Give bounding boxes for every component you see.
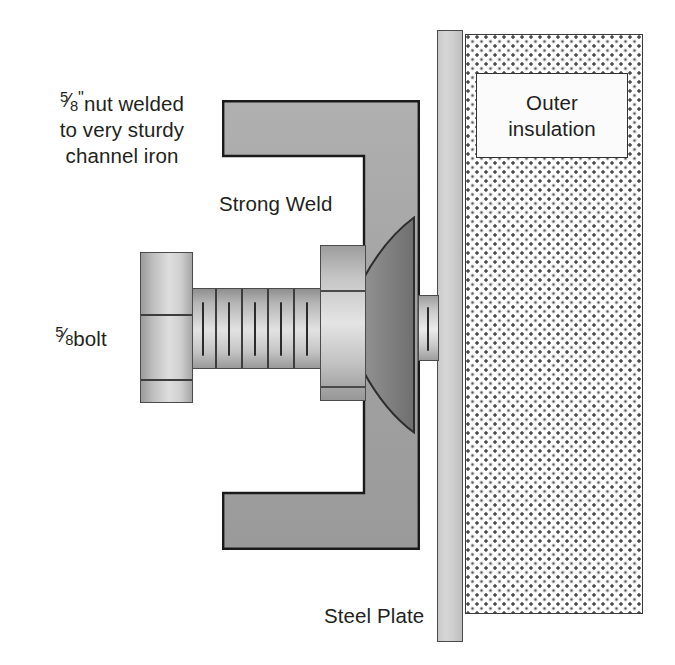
- thread-tick: [280, 302, 282, 356]
- thread-tick: [202, 302, 204, 356]
- thread-tick: [306, 302, 308, 356]
- diagram-canvas: Outer insulation: [0, 0, 675, 665]
- bolt-stub: [418, 295, 439, 361]
- thread-tick: [254, 302, 256, 356]
- bolt-head-edge-line: [141, 314, 192, 316]
- steel-plate-label: Steel Plate: [324, 603, 424, 629]
- bolt-label-text: bolt: [73, 327, 106, 350]
- nut-note-label: 5⁄8"nut welded to very sturdy channel ir…: [22, 84, 222, 169]
- thread-tick: [228, 302, 230, 356]
- thread-divider: [293, 289, 295, 368]
- thread-divider: [215, 289, 217, 368]
- threaded-shaft: [190, 288, 321, 369]
- outer-insulation-label-box: Outer insulation: [476, 73, 628, 158]
- outer-insulation-label: Outer insulation: [508, 90, 596, 142]
- thread-divider: [241, 289, 243, 368]
- bolt-head: [140, 252, 193, 403]
- nut-edge-line-bottom: [321, 386, 365, 388]
- steel-plate: [437, 30, 463, 642]
- bolt-size-label: 5⁄8bolt: [16, 325, 146, 352]
- thread-divider: [267, 289, 269, 368]
- strong-weld-label: Strong Weld: [219, 191, 333, 217]
- welded-nut-block: [320, 245, 366, 401]
- fraction-five-eighths: 5⁄8: [55, 325, 73, 346]
- nut-edge-line-top: [321, 290, 365, 292]
- bolt-head-edge-line: [141, 379, 192, 381]
- fraction-five-eighths: 5⁄8: [60, 90, 78, 111]
- thread-tick: [427, 307, 429, 351]
